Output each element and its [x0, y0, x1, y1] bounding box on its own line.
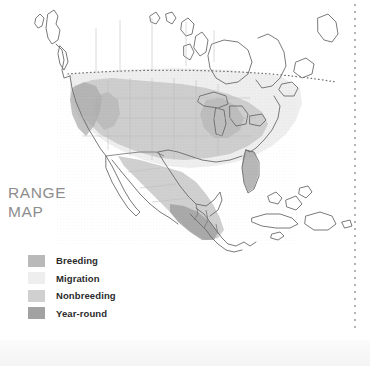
column-divider-rule	[354, 4, 356, 330]
legend-item-year-round: Year-round	[28, 305, 188, 323]
legend-swatch-nonbreeding	[28, 290, 45, 302]
legend-label-year-round: Year-round	[56, 308, 107, 319]
range-map-caption: RANGE MAP	[8, 183, 104, 221]
range-map-caption-line1: RANGE	[8, 183, 104, 202]
legend-label-migration: Migration	[56, 273, 100, 284]
legend-label-breeding: Breeding	[56, 255, 98, 266]
legend-swatch-migration	[28, 272, 45, 284]
legend-item-nonbreeding: Nonbreeding	[28, 287, 188, 305]
legend-label-nonbreeding: Nonbreeding	[56, 290, 116, 301]
range-map-page: RANGE MAP Breeding Migration Nonbreeding…	[0, 0, 370, 366]
legend-swatch-breeding	[28, 255, 45, 267]
legend-item-migration: Migration	[28, 270, 188, 288]
range-map-legend: Breeding Migration Nonbreeding Year-roun…	[28, 252, 188, 322]
legend-item-breeding: Breeding	[28, 252, 188, 270]
legend-swatch-year-round	[28, 307, 45, 319]
range-map-caption-line2: MAP	[8, 202, 104, 221]
